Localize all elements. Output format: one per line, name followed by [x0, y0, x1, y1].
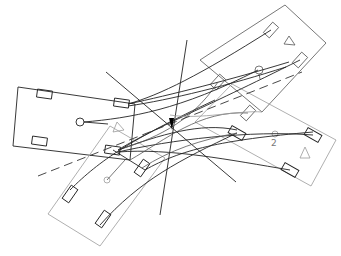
top-right-block — [200, 5, 326, 121]
bottom-left-block — [48, 126, 165, 246]
triangle-marker-icon — [300, 147, 310, 158]
connector-lines — [70, 30, 313, 225]
node-circle-icon — [76, 118, 84, 126]
node-label: 2 — [271, 138, 277, 148]
left-block — [13, 87, 135, 160]
lower-right-block: 2 — [195, 84, 336, 186]
diagram-canvas: 2 — [0, 0, 341, 256]
triangle-marker-icon — [284, 36, 295, 45]
